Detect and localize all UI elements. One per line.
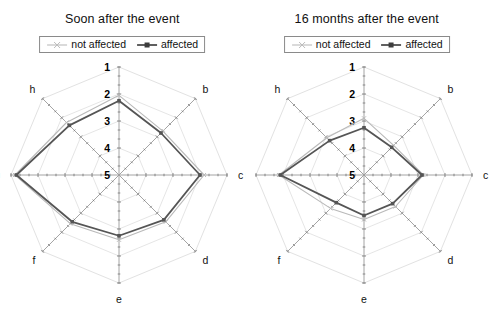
- marker-h: [68, 124, 72, 128]
- spoke-cap-g: [255, 174, 257, 176]
- ring-label-2: 2: [349, 88, 355, 100]
- spoke-cap-c: [471, 174, 473, 176]
- legend-entry-affected-right: affected: [381, 39, 443, 50]
- ring-label-4: 4: [349, 142, 355, 154]
- radar-figure: Soon after the event not affected affect…: [0, 0, 489, 311]
- axis-label-b: b: [447, 83, 453, 95]
- legend-entry-affected-left: affected: [136, 39, 198, 50]
- legend-right: not affected affected: [284, 36, 450, 53]
- ring-label-3: 3: [104, 115, 110, 127]
- axis-label-d: d: [447, 254, 453, 266]
- panel-sixteen-months-after: 16 months after the event not affected a…: [245, 0, 489, 311]
- axis-label-c: c: [483, 169, 488, 181]
- marker-d: [390, 202, 394, 206]
- axis-label-e: e: [116, 293, 122, 305]
- spoke-cap-b: [194, 98, 196, 100]
- legend-swatch-affected-left: [136, 40, 158, 50]
- radar-spokes: [255, 66, 473, 284]
- marker-f: [334, 201, 338, 205]
- axis-letters: abcdefgh: [0, 56, 243, 305]
- legend-label-not-affected-right: not affected: [316, 39, 371, 50]
- spoke-cap-a: [363, 66, 365, 68]
- marker-d: [162, 218, 166, 222]
- spoke-cap-d: [194, 250, 196, 252]
- axis-label-h: h: [30, 83, 36, 95]
- marker-g: [278, 173, 282, 177]
- marker-h: [327, 139, 331, 143]
- axis-label-f: f: [33, 254, 36, 266]
- legend-swatch-not-affected-left: [46, 40, 68, 50]
- spoke-cap-h: [286, 98, 288, 100]
- legend-swatch-not-affected-right: [291, 40, 313, 50]
- ring-label-5: 5: [104, 169, 110, 181]
- panel-title-right: 16 months after the event: [245, 12, 489, 26]
- spoke-cap-e: [118, 282, 120, 284]
- radar-spokes: [10, 66, 228, 284]
- marker-f: [70, 220, 74, 224]
- spoke-cap-e: [363, 282, 365, 284]
- legend-entry-not-affected-left: not affected: [46, 39, 126, 50]
- marker-c: [420, 173, 424, 177]
- axis-label-b: b: [203, 83, 209, 95]
- marker-e: [362, 214, 366, 218]
- panel-soon-after: Soon after the event not affected affect…: [0, 0, 245, 311]
- marker-a: [117, 99, 121, 103]
- panel-title-left: Soon after the event: [0, 12, 245, 26]
- marker-b: [389, 146, 393, 150]
- legend-label-not-affected-left: not affected: [71, 39, 126, 50]
- marker-g: [15, 173, 19, 177]
- radar-chart-soon-after: abcdefgh12345: [0, 56, 245, 308]
- legend-left: not affected affected: [39, 36, 205, 53]
- radar-chart-sixteen-months-after: abcdefgh12345: [245, 56, 489, 308]
- axis-label-h: h: [274, 83, 280, 95]
- legend-swatch-affected-right: [381, 40, 403, 50]
- axis-label-f: f: [277, 254, 280, 266]
- legend-label-affected-right: affected: [406, 39, 443, 50]
- marker-a: [362, 126, 366, 130]
- spoke-cap-d: [439, 250, 441, 252]
- ring-label-2: 2: [104, 88, 110, 100]
- marker-e: [117, 234, 121, 238]
- spoke-cap-b: [439, 98, 441, 100]
- axis-label-e: e: [361, 293, 367, 305]
- ring-label-4: 4: [104, 142, 110, 154]
- marker-b: [159, 131, 163, 135]
- spoke-cap-h: [42, 98, 44, 100]
- spoke-cap-c: [226, 174, 228, 176]
- marker-c: [198, 173, 202, 177]
- spoke-cap-f: [286, 250, 288, 252]
- legend-entry-not-affected-right: not affected: [291, 39, 371, 50]
- ring-label-1: 1: [104, 61, 110, 73]
- spoke-cap-a: [118, 66, 120, 68]
- legend-label-affected-left: affected: [161, 39, 198, 50]
- axis-label-c: c: [238, 169, 243, 181]
- axis-letters: abcdefgh: [245, 56, 488, 305]
- spoke-cap-g: [10, 174, 12, 176]
- spoke-cap-f: [42, 250, 44, 252]
- ring-label-1: 1: [349, 61, 355, 73]
- ring-label-5: 5: [349, 169, 355, 181]
- axis-label-d: d: [203, 254, 209, 266]
